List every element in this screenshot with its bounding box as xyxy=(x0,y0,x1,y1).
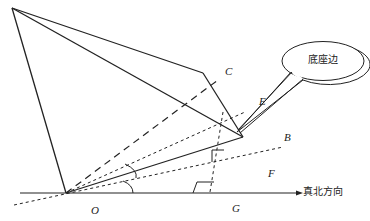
edge-C-to-tip xyxy=(203,73,243,137)
callout-tail-lower xyxy=(240,79,303,133)
edge-top-to-tip xyxy=(12,8,243,137)
label-C: C xyxy=(225,66,232,77)
true-north-label: 真北方向 xyxy=(303,187,343,197)
label-G: G xyxy=(232,203,240,214)
dashed-O-to-E xyxy=(66,112,245,193)
edge-O-to-tip xyxy=(66,137,243,193)
arrow-head-icon xyxy=(296,191,303,196)
callout-text: 底座边 xyxy=(308,55,338,65)
label-E: E xyxy=(259,96,266,107)
label-B: B xyxy=(284,132,291,143)
dashed-O-to-C xyxy=(66,80,218,193)
diagram-canvas: 底座边 真北方向 C E B F O G xyxy=(0,0,370,221)
angle-arc-lower xyxy=(123,181,133,193)
label-O: O xyxy=(91,205,99,216)
angle-arc-upper xyxy=(125,164,136,178)
edge-top-to-C xyxy=(12,8,203,73)
right-angle-marker-lower xyxy=(193,182,214,193)
edge-top-to-O xyxy=(12,8,66,193)
label-F: F xyxy=(268,168,275,179)
